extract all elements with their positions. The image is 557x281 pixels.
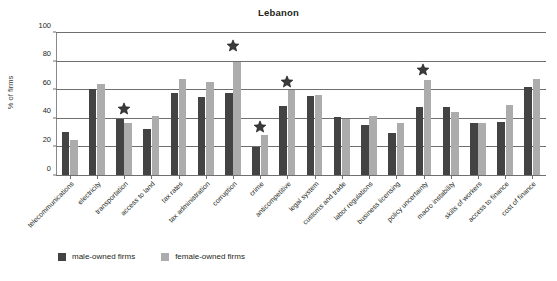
legend-swatch-female [161, 253, 169, 261]
bar-female [369, 116, 377, 176]
bar-group [383, 33, 410, 176]
bar-female [533, 79, 541, 176]
y-tick-label-40: 40 [43, 106, 51, 115]
y-tick-label-80: 80 [43, 49, 51, 58]
x-tick-mark [396, 176, 397, 179]
bar-group [274, 33, 301, 176]
x-tick-label: electricity [76, 180, 102, 206]
x-tick-mark [505, 176, 506, 179]
bar-groups [56, 33, 546, 176]
x-tick-mark [124, 176, 125, 179]
bar-female [124, 123, 132, 176]
y-axis-label: % of firms [6, 63, 15, 123]
bar-male [334, 117, 342, 176]
bar-male [388, 133, 396, 176]
x-tick-mark [260, 176, 261, 179]
bar-male [143, 129, 151, 176]
bar-group [492, 33, 519, 176]
x-tick-mark [287, 176, 288, 179]
legend-label: male-owned firms [72, 252, 135, 261]
bar-male [361, 125, 369, 176]
x-tick-label: telecommunications [26, 180, 75, 229]
bar-group [464, 33, 491, 176]
bar-group [110, 33, 137, 176]
chart-title: Lebanon [0, 7, 557, 18]
bar-male [470, 123, 478, 176]
significance-star-icon [281, 75, 294, 88]
x-tick-label: crime [248, 180, 265, 197]
x-tick-label: tax rates [160, 180, 184, 204]
legend-item[interactable]: female-owned firms [161, 252, 245, 261]
bar-female [478, 123, 486, 176]
bar-group [328, 33, 355, 176]
x-tick-mark [532, 176, 533, 179]
bar-male [89, 89, 97, 176]
significance-star-icon [226, 39, 239, 52]
x-tick-mark [315, 176, 316, 179]
x-tick-mark [451, 176, 452, 179]
bar-male [416, 107, 424, 176]
bar-group [56, 33, 83, 176]
x-tick-mark [151, 176, 152, 179]
significance-star-icon [118, 102, 131, 115]
bar-group [355, 33, 382, 176]
bar-female [397, 123, 405, 176]
bar-group [519, 33, 546, 176]
plot-inner: 020406080100 [56, 33, 546, 176]
x-axis-labels: telecommunicationselectricitytransportat… [56, 176, 546, 246]
y-tick-label-60: 60 [43, 77, 51, 86]
x-tick-label: corruption [211, 180, 238, 207]
x-tick-mark [424, 176, 425, 179]
bar-group [138, 33, 165, 176]
bar-male [198, 97, 206, 176]
bar-male [62, 132, 70, 176]
bar-female [261, 135, 269, 176]
bar-male [307, 96, 315, 176]
chart-legend: male-owned firmsfemale-owned firms [58, 252, 271, 261]
significance-star-icon [417, 63, 430, 76]
bar-group [437, 33, 464, 176]
x-tick-mark [233, 176, 234, 179]
bar-group [192, 33, 219, 176]
x-tick-mark [97, 176, 98, 179]
bar-female [288, 90, 296, 176]
bar-group [83, 33, 110, 176]
bar-female [506, 105, 514, 177]
x-tick-mark [70, 176, 71, 179]
bar-female [206, 82, 214, 176]
x-tick-mark [369, 176, 370, 179]
bar-female [97, 84, 105, 176]
bar-group [247, 33, 274, 176]
plot-area: 020406080100 [56, 33, 546, 176]
bar-male [524, 87, 532, 176]
bar-female [70, 140, 78, 176]
bar-male [116, 119, 124, 176]
bar-group [219, 33, 246, 176]
bar-male [497, 122, 505, 176]
bar-male [171, 93, 179, 176]
bar-male [225, 93, 233, 176]
x-tick-mark [478, 176, 479, 179]
y-tick-label-0: 0 [47, 163, 51, 172]
bar-male [279, 106, 287, 176]
bar-group [410, 33, 437, 176]
legend-swatch-male [58, 253, 66, 261]
legend-label: female-owned firms [175, 252, 245, 261]
y-tick-label-100: 100 [38, 20, 51, 29]
bar-male [252, 147, 260, 176]
bar-female [315, 95, 323, 177]
bar-female [233, 62, 241, 176]
y-tick-label-20: 20 [43, 134, 51, 143]
bar-group [165, 33, 192, 176]
bar-female [424, 80, 432, 176]
bar-female [342, 119, 350, 176]
bar-group [301, 33, 328, 176]
significance-star-icon [254, 120, 267, 133]
legend-item[interactable]: male-owned firms [58, 252, 135, 261]
bar-female [451, 112, 459, 176]
bar-female [152, 116, 160, 176]
x-tick-mark [206, 176, 207, 179]
bar-female [179, 79, 187, 176]
chart-figure: Lebanon % of firms 020406080100 telecomm… [0, 0, 557, 281]
bar-male [443, 107, 451, 176]
